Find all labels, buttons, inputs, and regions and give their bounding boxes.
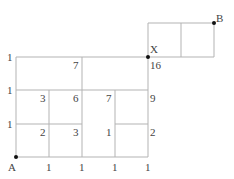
cell-count: 1 <box>106 126 112 138</box>
left-label: 1 <box>7 84 13 96</box>
bottom-label: 1 <box>79 161 85 173</box>
cell-count: 6 <box>73 92 79 104</box>
label-x: X <box>150 43 158 55</box>
bottom-label: 1 <box>112 161 118 173</box>
point-a <box>14 155 18 159</box>
bottom-label: 1 <box>145 161 151 173</box>
label-b: B <box>216 12 223 24</box>
grid-diagram: A X B 1 1 1 1 1 1 1 2 3 1 2 3 6 7 9 7 16 <box>0 0 234 179</box>
cell-count: 9 <box>150 92 156 104</box>
cell-count: 3 <box>73 126 79 138</box>
cell-count: 3 <box>40 92 46 104</box>
left-label: 1 <box>7 118 13 130</box>
left-label: 1 <box>7 51 13 63</box>
cell-count: 2 <box>150 126 156 138</box>
cell-count: 7 <box>106 92 112 104</box>
cell-count: 2 <box>40 126 46 138</box>
grid-lines <box>16 23 214 157</box>
cell-count: 16 <box>150 59 162 71</box>
bottom-label: 1 <box>46 161 52 173</box>
label-a: A <box>8 161 16 173</box>
cell-count: 7 <box>73 59 79 71</box>
